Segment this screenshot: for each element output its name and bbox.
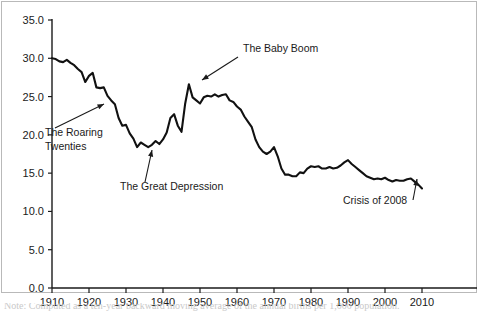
birth-rate-chart: 0.05.010.015.020.025.030.035.0 191019201… [0, 0, 481, 315]
annotation-arrowhead-baby-boom [202, 74, 209, 80]
annotation-arrow-roaring-twenties [55, 104, 104, 128]
y-axis-tick-label: 5.0 [29, 244, 44, 256]
annotation-arrowhead-great-depression [148, 150, 153, 157]
annotation-label2-roaring-twenties: Twenties [45, 140, 86, 152]
annotation-label-great-depression: The Great Depression [120, 180, 223, 192]
y-axis-tick-label: 20.0 [23, 129, 44, 141]
y-axis-tick-label: 30.0 [23, 52, 44, 64]
annotation-label-roaring-twenties: The Roaring [45, 126, 103, 138]
y-axis-tick-label: 25.0 [23, 91, 44, 103]
birth-rate-series-line [52, 58, 422, 188]
annotation-arrowhead-roaring-twenties [97, 104, 104, 109]
annotation-label-crisis-2008: Crisis of 2008 [343, 194, 407, 206]
figure-caption: Note: Computed as a ten-year backward mo… [4, 303, 399, 311]
y-axis-tick-label: 0.0 [29, 282, 44, 294]
y-axis-tick-label: 10.0 [23, 205, 44, 217]
annotation-group: The RoaringTwentiesThe Great DepressionT… [45, 42, 418, 206]
y-axis-tick-label: 15.0 [23, 167, 44, 179]
annotation-label-baby-boom: The Baby Boom [243, 42, 319, 54]
figure-caption-strip: Note: Computed as a ten-year backward mo… [0, 303, 481, 315]
y-axis-tick-group: 0.05.010.015.020.025.030.035.0 [23, 14, 52, 294]
chart-plot-area: 0.05.010.015.020.025.030.035.0 191019201… [0, 0, 481, 315]
y-axis-tick-label: 35.0 [23, 14, 44, 26]
